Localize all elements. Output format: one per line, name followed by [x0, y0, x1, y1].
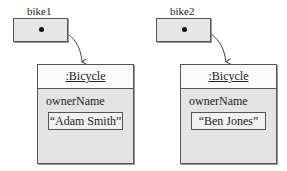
bicycle-object-2: :Bicycle ownerName “Ben Jones”: [180, 64, 277, 164]
class-label: :Bicycle: [209, 69, 249, 83]
object-class-header: :Bicycle: [181, 65, 276, 89]
reference-box-bike1: [13, 18, 68, 42]
pointer-dot-icon: [39, 27, 44, 32]
field-value: “Ben Jones”: [191, 112, 266, 130]
reference-box-bike2: [156, 18, 211, 42]
field-value: “Adam Smith”: [48, 112, 123, 130]
variable-label-bike1: bike1: [27, 5, 51, 17]
pointer-dot-icon: [182, 27, 187, 32]
field-name: ownerName: [46, 94, 105, 109]
object-class-header: :Bicycle: [38, 65, 133, 89]
class-label: :Bicycle: [66, 69, 106, 83]
field-name: ownerName: [189, 94, 248, 109]
variable-label-bike2: bike2: [170, 5, 194, 17]
bicycle-object-1: :Bicycle ownerName “Adam Smith”: [37, 64, 134, 164]
